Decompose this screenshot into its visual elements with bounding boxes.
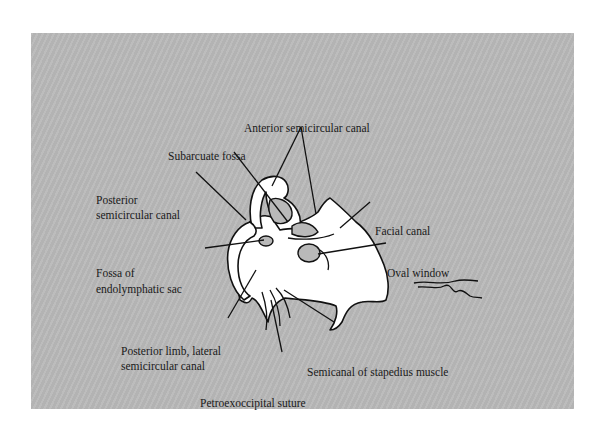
label-posterior-semicircular-canal-1: Posterior: [96, 193, 138, 207]
leader-anterior-1: [272, 127, 301, 186]
leader-anterior-2: [301, 127, 316, 214]
label-fossa-endolymphatic-1: Fossa of: [96, 266, 135, 280]
label-subarcuate-fossa: Subarcuate fossa: [168, 149, 246, 163]
label-petroexoccipital-suture: Petroexoccipital suture: [200, 396, 306, 410]
label-facial-canal: Facial canal: [375, 224, 430, 238]
wavy-line: [414, 280, 478, 283]
label-fossa-endolymphatic-2: endolymphatic sac: [96, 282, 182, 296]
temporal-bone-illustration: [0, 0, 601, 431]
oval-window-shape: [298, 244, 320, 262]
label-posterior-limb-2: semicircular canal: [121, 359, 205, 373]
label-oval-window: Oval window: [387, 266, 449, 280]
label-anterior-semicircular-canal: Anterior semicircular canal: [244, 121, 370, 135]
leader-posterior-canal: [196, 172, 246, 220]
label-posterior-limb-1: Posterior limb, lateral: [121, 344, 221, 358]
label-posterior-semicircular-canal-2: semicircular canal: [96, 208, 180, 222]
label-semicanal-stapedius: Semicanal of stapedius muscle: [307, 365, 448, 379]
